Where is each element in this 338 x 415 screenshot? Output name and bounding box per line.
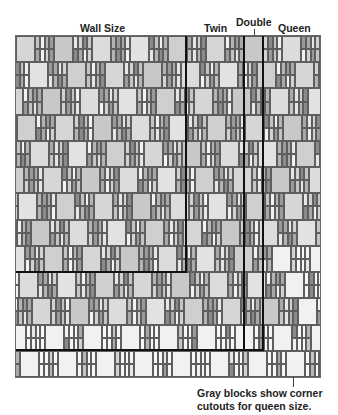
quilt-strip-bottom xyxy=(318,285,320,298)
quilt-square-block xyxy=(94,193,113,219)
quilt-square-block xyxy=(134,351,153,377)
quilt-square-block xyxy=(220,141,239,167)
quilt-square-block xyxy=(19,272,38,298)
quilt-square-block xyxy=(31,220,50,246)
quilt-square-block xyxy=(133,272,152,298)
quilt-square-block xyxy=(221,220,240,246)
quilt-square-block xyxy=(207,115,226,141)
quilt-square-block xyxy=(284,193,303,219)
quilt-square-block xyxy=(258,141,277,167)
quilt-square-block xyxy=(308,88,320,114)
double-outline-vertical xyxy=(262,36,264,351)
quilt-strip-top xyxy=(315,36,320,49)
quilt-square-block xyxy=(44,246,63,272)
quilt-square-block xyxy=(298,298,317,324)
quilt-square-block xyxy=(248,351,267,377)
quilt-square-block xyxy=(92,36,111,62)
quilt-strip-top xyxy=(317,193,320,206)
quilt-square-block xyxy=(131,115,150,141)
quilt-square-block xyxy=(108,298,127,324)
quilt-layout-diagram xyxy=(16,36,320,377)
quilt-square-block xyxy=(16,325,26,351)
quilt-square-block xyxy=(310,246,320,272)
caption-leader-line xyxy=(293,377,294,387)
quilt-square-block xyxy=(143,62,162,88)
quilt-square-block xyxy=(55,115,74,141)
quilt-square-block xyxy=(172,351,191,377)
quilt-square-block xyxy=(118,88,137,114)
quilt-square-block xyxy=(45,325,64,351)
quilt-square-block xyxy=(80,88,99,114)
quilt-strip-top xyxy=(316,115,320,128)
quilt-square-block xyxy=(132,193,151,219)
quilt-square-block xyxy=(56,193,75,219)
quilt-square-block xyxy=(106,141,125,167)
wall-size-outline-vertical xyxy=(185,36,187,273)
quilt-square-block xyxy=(196,246,215,272)
quilt-square-block xyxy=(58,351,77,377)
quilt-square-block xyxy=(121,325,140,351)
twin-outline-vertical xyxy=(243,36,245,351)
quilt-square-block xyxy=(70,298,89,324)
quilt-square-block xyxy=(67,62,86,88)
quilt-square-block xyxy=(297,220,316,246)
quilt-square-block xyxy=(195,167,214,193)
twin-double-outline-horizontal xyxy=(16,349,264,351)
quilt-square-block xyxy=(171,272,190,298)
quilt-square-block xyxy=(30,141,49,167)
quilt-square-block xyxy=(18,193,37,219)
quilt-square-block xyxy=(29,62,48,88)
quilt-square-block xyxy=(181,62,200,88)
quilt-square-block xyxy=(17,115,36,141)
caption-line-2: cutouts for queen size. xyxy=(197,400,322,413)
quilt-strip-top xyxy=(318,272,320,285)
quilt-square-block xyxy=(83,325,102,351)
quilt-square-block xyxy=(270,88,289,114)
quilt-square-block xyxy=(210,351,229,377)
quilt-square-block xyxy=(271,167,290,193)
quilt-square-block xyxy=(20,351,39,377)
quilt-square-block xyxy=(156,88,175,114)
quilt-square-block xyxy=(42,88,61,114)
quilt-square-block xyxy=(54,36,73,62)
queen-label: Queen xyxy=(278,22,311,34)
quilt-square-block xyxy=(95,272,114,298)
quilt-square-block xyxy=(145,220,164,246)
quilt-strip-top xyxy=(317,298,320,311)
quilt-square-block xyxy=(81,167,100,193)
quilt-square-block xyxy=(257,62,276,88)
quilt-square-block xyxy=(285,272,304,298)
quilt-square-block xyxy=(295,62,314,88)
quilt-square-block xyxy=(107,220,126,246)
quilt-square-block xyxy=(296,141,315,167)
quilt-strip-bottom xyxy=(319,75,320,88)
quilt-strip-top xyxy=(319,62,320,75)
wall-size-outline-horizontal xyxy=(16,271,187,273)
quilt-square-block xyxy=(158,246,177,272)
quilt-square-block xyxy=(105,62,124,88)
quilt-square-block xyxy=(232,88,251,114)
quilt-strip-bottom xyxy=(317,311,320,324)
quilt-square-block xyxy=(16,36,35,62)
quilt-square-block xyxy=(273,325,292,351)
quilt-square-block xyxy=(311,325,320,351)
quilt-square-block xyxy=(68,141,87,167)
quilt-square-block xyxy=(32,298,51,324)
quilt-square-block xyxy=(184,298,203,324)
quilt-square-block xyxy=(16,167,24,193)
quilt-square-block xyxy=(120,246,139,272)
quilt-square-block xyxy=(209,272,228,298)
quilt-square-block xyxy=(222,298,241,324)
quilt-square-block xyxy=(282,36,301,62)
caption-line-1: Gray blocks show corner xyxy=(197,387,322,400)
quilt-square-block xyxy=(206,36,225,62)
double-label: Double xyxy=(236,16,272,28)
quilt-square-block xyxy=(157,167,176,193)
quilt-strip-top xyxy=(316,220,320,233)
quilt-square-block xyxy=(219,62,238,88)
quilt-strip-bottom xyxy=(319,364,320,377)
quilt-square-block xyxy=(82,246,101,272)
quilt-square-block xyxy=(43,167,62,193)
caption: Gray blocks show corner cutouts for quee… xyxy=(197,387,322,413)
quilt-square-block xyxy=(96,351,115,377)
